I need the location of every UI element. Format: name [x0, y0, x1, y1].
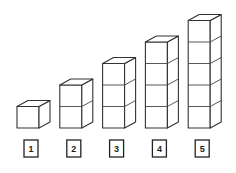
stack-side-face [210, 15, 221, 129]
cube-stack-4: 4 [145, 36, 178, 157]
stack-front-face [17, 107, 39, 129]
cube-stack-2: 2 [60, 79, 93, 157]
cube-stacks-diagram: 12345 [0, 0, 236, 173]
stack-label-4: 4 [152, 140, 166, 157]
svg-text:4: 4 [157, 144, 162, 154]
svg-text:2: 2 [71, 144, 76, 154]
stack-front-face [188, 21, 210, 129]
stack-label-3: 3 [110, 140, 124, 157]
stack-label-5: 5 [195, 140, 209, 157]
stack-front-face [103, 64, 125, 129]
cube-stack-5: 5 [188, 15, 221, 158]
stack-label-2: 2 [67, 140, 81, 157]
stack-label-1: 1 [24, 140, 38, 157]
svg-text:3: 3 [114, 144, 119, 154]
svg-text:5: 5 [200, 144, 205, 154]
cube-stack-3: 3 [103, 58, 136, 158]
stack-side-face [125, 58, 136, 129]
svg-text:1: 1 [28, 144, 33, 154]
cube-stack-1: 1 [17, 101, 50, 158]
